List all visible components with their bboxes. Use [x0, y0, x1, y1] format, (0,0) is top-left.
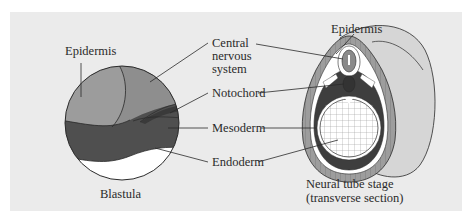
notochord-label: Notochord	[212, 87, 265, 100]
germ-layer-diagram	[0, 0, 464, 218]
blastula-epidermis-label: Epidermis	[65, 45, 116, 58]
neural-epidermis-label: Epidermis	[331, 23, 382, 36]
blastula-caption: Blastula	[100, 188, 141, 201]
neural-caption-line1: Neural tube stage	[306, 178, 393, 191]
notochord	[343, 76, 355, 92]
neural-caption-line2: (transverse section)	[306, 192, 404, 205]
cns-label-line3: system	[212, 63, 247, 76]
endoderm-yolk	[320, 99, 378, 157]
blastula	[60, 60, 190, 190]
endoderm-label: Endoderm	[212, 156, 264, 169]
neural-tube-section	[302, 26, 435, 183]
mesoderm-label: Mesoderm	[212, 122, 265, 135]
